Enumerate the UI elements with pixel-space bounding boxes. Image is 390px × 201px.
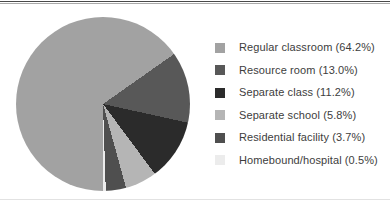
legend-swatch [215,65,225,75]
legend-label: Regular classroom (64.2%) [239,42,375,53]
top-rule-dark [0,1,390,2]
legend-swatch [215,110,225,120]
bottom-rule [0,199,390,200]
legend-swatch [215,43,225,53]
legend-swatch [215,88,225,98]
legend-item-separate-class: Separate class (11.2%) [215,87,378,98]
pie-chart-figure: Regular classroom (64.2%) Resource room … [0,0,390,201]
pie-chart [16,17,190,191]
legend-item-separate-school: Separate school (5.8%) [215,110,378,121]
legend-label: Residential facility (3.7%) [239,132,365,143]
legend-item-homebound-hospital: Homebound/hospital (0.5%) [215,155,378,166]
legend-label: Separate school (5.8%) [239,110,356,121]
chart-legend: Regular classroom (64.2%) Resource room … [215,42,378,166]
legend-label: Resource room (13.0%) [239,65,358,76]
legend-label: Separate class (11.2%) [239,87,355,98]
legend-item-residential-facility: Residential facility (3.7%) [215,132,378,143]
legend-swatch [215,155,225,165]
legend-item-resource-room: Resource room (13.0%) [215,65,378,76]
legend-swatch [215,133,225,143]
legend-item-regular-classroom: Regular classroom (64.2%) [215,42,378,53]
top-rule-light [0,3,390,4]
legend-label: Homebound/hospital (0.5%) [239,155,378,166]
